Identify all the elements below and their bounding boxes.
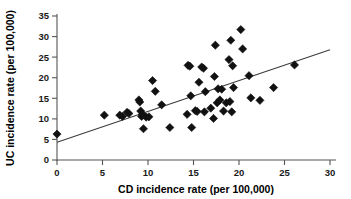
y-tick-label-30: 30 bbox=[38, 31, 49, 42]
x-tick-label-10: 10 bbox=[143, 167, 154, 178]
data-point-marker bbox=[53, 130, 61, 138]
data-point-marker bbox=[211, 41, 219, 49]
x-tick-label-30: 30 bbox=[325, 167, 336, 178]
x-axis: 0 5 10 15 20 25 30 CD incidence rate (pe… bbox=[54, 160, 336, 195]
y-axis: 0 5 10 15 20 25 30 35 UC incidence rate … bbox=[4, 10, 57, 166]
data-points bbox=[53, 25, 299, 138]
x-axis-tick-labels: 0 5 10 15 20 25 30 bbox=[54, 167, 335, 178]
data-point-marker bbox=[219, 107, 227, 115]
y-tick-label-5: 5 bbox=[44, 134, 50, 145]
x-tick-label-20: 20 bbox=[234, 167, 245, 178]
x-axis-ticks bbox=[57, 160, 330, 165]
y-tick-label-15: 15 bbox=[38, 93, 49, 104]
data-point-marker bbox=[229, 83, 237, 91]
data-point-marker bbox=[166, 123, 174, 131]
x-axis-title: CD incidence rate (per 100,000) bbox=[118, 183, 274, 195]
data-point-marker bbox=[239, 45, 247, 53]
data-point-marker bbox=[247, 94, 255, 102]
data-point-marker bbox=[201, 88, 209, 96]
x-tick-label-5: 5 bbox=[100, 167, 106, 178]
data-point-marker bbox=[148, 76, 156, 84]
x-tick-label-15: 15 bbox=[188, 167, 199, 178]
data-point-marker bbox=[100, 111, 108, 119]
x-tick-label-25: 25 bbox=[279, 167, 290, 178]
data-point-marker bbox=[256, 96, 264, 104]
data-point-marker bbox=[237, 25, 245, 33]
data-point-marker bbox=[183, 110, 191, 118]
y-axis-ticks bbox=[52, 16, 57, 160]
y-tick-label-10: 10 bbox=[38, 113, 49, 124]
data-point-marker bbox=[228, 108, 236, 116]
y-axis-tick-labels: 0 5 10 15 20 25 30 35 bbox=[38, 10, 49, 165]
data-point-marker bbox=[290, 61, 298, 69]
y-tick-label-20: 20 bbox=[38, 72, 49, 83]
data-point-marker bbox=[210, 72, 218, 80]
data-point-marker bbox=[209, 114, 217, 122]
y-tick-label-0: 0 bbox=[44, 154, 49, 165]
y-tick-label-25: 25 bbox=[38, 52, 49, 63]
data-point-marker bbox=[269, 83, 277, 91]
y-tick-label-35: 35 bbox=[38, 10, 49, 21]
chart-canvas: 0 5 10 15 20 25 30 35 UC incidence rate … bbox=[0, 0, 351, 199]
data-point-marker bbox=[151, 87, 159, 95]
data-point-marker bbox=[187, 92, 195, 100]
data-point-marker bbox=[139, 125, 147, 133]
y-axis-title: UC incidence rate (per 100,000) bbox=[4, 10, 16, 166]
x-tick-label-0: 0 bbox=[54, 167, 59, 178]
data-point-marker bbox=[195, 78, 203, 86]
scatter-plot-figure: 0 5 10 15 20 25 30 35 UC incidence rate … bbox=[0, 0, 351, 199]
data-point-marker bbox=[188, 123, 196, 131]
data-point-marker bbox=[227, 36, 235, 44]
